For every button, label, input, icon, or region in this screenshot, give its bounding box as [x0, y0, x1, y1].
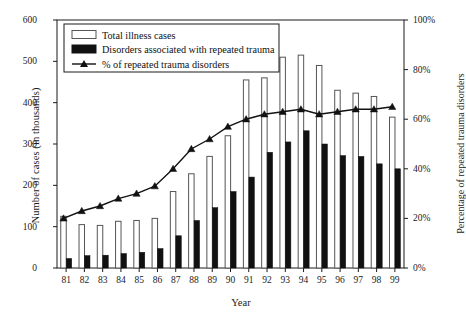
legend-swatch-outline-bar — [72, 31, 96, 39]
bar-repeated-trauma-disorders — [322, 144, 327, 268]
legend-swatch-filled-bar — [72, 45, 96, 53]
bar-total-illness-cases — [316, 65, 321, 268]
bar-repeated-trauma-disorders — [231, 192, 236, 268]
bar-total-illness-cases — [134, 220, 139, 268]
bar-total-illness-cases — [243, 80, 248, 268]
marker-triangle — [188, 145, 195, 151]
bar-total-illness-cases — [353, 93, 358, 268]
bar-total-illness-cases — [116, 221, 121, 268]
bar-repeated-trauma-disorders — [176, 236, 181, 268]
bar-total-illness-cases — [207, 156, 212, 268]
bar-repeated-trauma-disorders — [158, 249, 163, 268]
legend-item-label: Total illness cases — [102, 30, 175, 41]
bar-repeated-trauma-disorders — [267, 152, 272, 268]
bar-total-illness-cases — [298, 55, 303, 268]
bar-repeated-trauma-disorders — [103, 255, 108, 268]
bar-repeated-trauma-disorders — [121, 254, 126, 268]
bar-repeated-trauma-disorders — [285, 142, 290, 268]
bar-total-illness-cases — [389, 117, 394, 268]
bar-repeated-trauma-disorders — [358, 156, 363, 268]
bar-repeated-trauma-disorders — [249, 177, 254, 268]
bar-repeated-trauma-disorders — [377, 164, 382, 268]
bar-repeated-trauma-disorders — [340, 156, 345, 268]
marker-triangle — [389, 103, 396, 109]
bar-total-illness-cases — [280, 57, 285, 268]
bar-total-illness-cases — [262, 78, 267, 268]
bar-total-illness-cases — [79, 225, 84, 268]
legend-item-label: Disorders associated with repeated traum… — [102, 44, 275, 55]
bar-repeated-trauma-disorders — [139, 252, 144, 268]
bar-total-illness-cases — [189, 174, 194, 268]
bar-total-illness-cases — [97, 225, 102, 268]
legend-item-label: % of repeated trauma disorders — [102, 59, 229, 70]
bar-repeated-trauma-disorders — [395, 169, 400, 268]
bar-total-illness-cases — [152, 218, 157, 268]
bar-total-illness-cases — [371, 96, 376, 268]
bar-total-illness-cases — [225, 136, 230, 268]
bar-total-illness-cases — [170, 192, 175, 268]
bar-repeated-trauma-disorders — [194, 220, 199, 268]
marker-triangle — [206, 135, 213, 141]
bar-repeated-trauma-disorders — [85, 256, 90, 268]
bar-repeated-trauma-disorders — [66, 258, 71, 268]
bar-total-illness-cases — [61, 216, 66, 268]
bar-repeated-trauma-disorders — [212, 208, 217, 268]
bar-total-illness-cases — [335, 90, 340, 268]
legend-item[interactable]: Total illness cases — [72, 30, 175, 41]
bar-repeated-trauma-disorders — [304, 131, 309, 268]
legend-item[interactable]: Disorders associated with repeated traum… — [72, 44, 275, 55]
